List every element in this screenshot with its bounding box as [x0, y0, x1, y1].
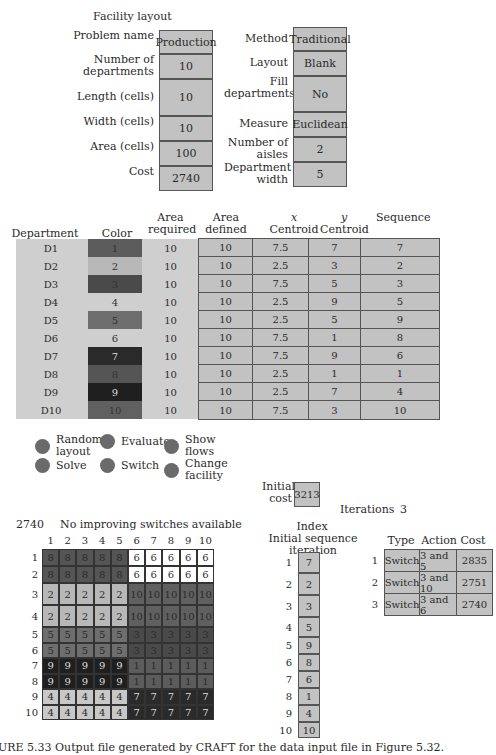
grid-cell[interactable]: 2 — [42, 583, 59, 605]
grid-cell[interactable]: 6 — [197, 549, 214, 566]
grid-cell[interactable]: 9 — [59, 658, 76, 674]
grid-cell[interactable]: 6 — [145, 566, 162, 583]
department-color-swatch[interactable]: 4 — [88, 293, 142, 311]
grid-cell[interactable]: 3 — [197, 643, 214, 659]
table-cell[interactable]: 3 — [309, 257, 361, 275]
department-color-swatch[interactable]: 6 — [88, 329, 142, 347]
grid-cell[interactable]: 8 — [111, 549, 128, 566]
grid-cell[interactable]: 4 — [111, 689, 128, 705]
grid-cell[interactable]: 1 — [162, 658, 179, 674]
table-cell[interactable]: 10 — [199, 239, 253, 257]
grid-cell[interactable]: 9 — [42, 674, 59, 690]
sequence-value[interactable]: 10 — [298, 722, 320, 738]
grid-cell[interactable]: 8 — [42, 549, 59, 566]
grid-cell[interactable]: 5 — [94, 627, 111, 643]
grid-cell[interactable]: 5 — [42, 627, 59, 643]
grid-cell[interactable]: 3 — [145, 643, 162, 659]
iteration-cell[interactable]: Switch — [384, 549, 420, 572]
grid-cell[interactable]: 9 — [42, 658, 59, 674]
grid-cell[interactable]: 10 — [128, 605, 145, 627]
grid-cell[interactable]: 7 — [145, 689, 162, 705]
sequence-value[interactable]: 2 — [298, 573, 320, 595]
grid-cell[interactable]: 5 — [94, 643, 111, 659]
iteration-cell[interactable]: 3 and 6 — [419, 593, 457, 616]
grid-cell[interactable]: 2 — [59, 583, 76, 605]
grid-cell[interactable]: 2 — [111, 583, 128, 605]
grid-cell[interactable]: 4 — [76, 689, 93, 705]
grid-cell[interactable]: 10 — [162, 583, 179, 605]
button-random-layout[interactable]: Random layout — [35, 434, 100, 458]
table-cell[interactable]: 2.5 — [253, 293, 309, 311]
iteration-cell[interactable]: 3 and 5 — [419, 549, 457, 572]
grid-cell[interactable]: 7 — [162, 705, 179, 721]
grid-cell[interactable]: 3 — [180, 627, 197, 643]
sequence-value[interactable]: 8 — [298, 654, 320, 671]
grid-cell[interactable]: 8 — [94, 549, 111, 566]
param-value-field[interactable]: Blank — [293, 51, 347, 76]
iteration-cell[interactable]: Switch — [384, 593, 420, 616]
grid-cell[interactable]: 8 — [59, 549, 76, 566]
param-value-field[interactable]: Euclidean — [293, 112, 347, 137]
grid-cell[interactable]: 9 — [111, 674, 128, 690]
grid-cell[interactable]: 9 — [76, 658, 93, 674]
sequence-value[interactable]: 6 — [298, 671, 320, 688]
table-cell[interactable]: 10 — [199, 365, 253, 383]
sequence-value[interactable]: 3 — [298, 595, 320, 617]
table-cell[interactable]: 2.5 — [253, 257, 309, 275]
grid-cell[interactable]: 2 — [42, 605, 59, 627]
sequence-value[interactable]: 9 — [298, 637, 320, 654]
table-cell[interactable]: 7 — [361, 239, 439, 257]
button-change-facility[interactable]: Change facility — [164, 458, 229, 482]
button-show-flows[interactable]: Show flows — [164, 434, 229, 458]
param-value-field[interactable]: 2 — [293, 137, 347, 162]
param-value-field[interactable]: 100 — [159, 141, 213, 166]
param-value-field[interactable]: Production — [159, 30, 213, 54]
grid-cell[interactable]: 1 — [180, 674, 197, 690]
grid-cell[interactable]: 8 — [94, 566, 111, 583]
button-evaluate[interactable]: Evaluate — [100, 434, 170, 449]
table-cell[interactable]: 5 — [309, 275, 361, 293]
iteration-cell[interactable]: 2751 — [456, 571, 493, 594]
department-color-swatch[interactable]: 2 — [88, 257, 142, 275]
param-value-field[interactable]: 2740 — [159, 166, 213, 191]
grid-cell[interactable]: 10 — [128, 583, 145, 605]
grid-cell[interactable]: 4 — [42, 705, 59, 721]
table-cell[interactable]: 5 — [309, 311, 361, 329]
sequence-value[interactable]: 7 — [298, 552, 320, 573]
department-color-swatch[interactable]: 7 — [88, 347, 142, 365]
grid-cell[interactable]: 5 — [59, 627, 76, 643]
grid-cell[interactable]: 6 — [180, 566, 197, 583]
grid-cell[interactable]: 8 — [59, 566, 76, 583]
grid-cell[interactable]: 3 — [128, 627, 145, 643]
department-color-swatch[interactable]: 10 — [88, 401, 142, 419]
grid-cell[interactable]: 6 — [145, 549, 162, 566]
grid-cell[interactable]: 10 — [197, 583, 214, 605]
table-cell[interactable]: 1 — [361, 365, 439, 383]
grid-cell[interactable]: 8 — [42, 566, 59, 583]
grid-cell[interactable]: 3 — [145, 627, 162, 643]
grid-cell[interactable]: 1 — [145, 658, 162, 674]
table-cell[interactable]: 3 — [361, 275, 439, 293]
grid-cell[interactable]: 9 — [94, 674, 111, 690]
grid-cell[interactable]: 9 — [59, 674, 76, 690]
grid-cell[interactable]: 3 — [197, 627, 214, 643]
grid-cell[interactable]: 5 — [111, 643, 128, 659]
grid-cell[interactable]: 1 — [197, 674, 214, 690]
table-cell[interactable]: 7.5 — [253, 239, 309, 257]
grid-cell[interactable]: 8 — [76, 566, 93, 583]
grid-cell[interactable]: 3 — [162, 627, 179, 643]
grid-cell[interactable]: 1 — [197, 658, 214, 674]
grid-cell[interactable]: 9 — [76, 674, 93, 690]
grid-cell[interactable]: 1 — [162, 674, 179, 690]
grid-cell[interactable]: 2 — [59, 605, 76, 627]
grid-cell[interactable]: 4 — [94, 705, 111, 721]
grid-cell[interactable]: 5 — [42, 643, 59, 659]
department-color-swatch[interactable]: 8 — [88, 365, 142, 383]
table-cell[interactable]: 10 — [199, 329, 253, 347]
grid-cell[interactable]: 5 — [76, 643, 93, 659]
grid-cell[interactable]: 7 — [128, 705, 145, 721]
table-cell[interactable]: 2.5 — [253, 383, 309, 401]
grid-cell[interactable]: 4 — [111, 705, 128, 721]
grid-cell[interactable]: 7 — [180, 689, 197, 705]
grid-cell[interactable]: 4 — [59, 705, 76, 721]
